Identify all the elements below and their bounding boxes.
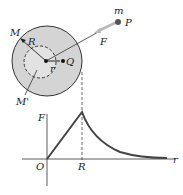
- label-F: F: [99, 36, 108, 47]
- force-curve: [47, 112, 167, 159]
- force-arrow: [98, 22, 117, 31]
- graph-label-r: r: [173, 154, 179, 165]
- point-P-mass: [115, 19, 121, 25]
- label-M: M: [9, 27, 21, 38]
- graph-label-R: R: [77, 161, 86, 172]
- force-arrowhead-icon: [94, 28, 101, 33]
- point-Q: [61, 59, 65, 63]
- label-m: m: [114, 5, 123, 16]
- label-M-prime: M': [15, 96, 29, 107]
- label-P: P: [124, 17, 132, 28]
- graph-label-O: O: [36, 161, 44, 172]
- gravitation-diagram: m P F M R Q r M' F r O R: [0, 0, 183, 195]
- label-Q: Q: [66, 56, 74, 67]
- graph-label-F: F: [37, 112, 46, 123]
- label-R: R: [27, 36, 36, 47]
